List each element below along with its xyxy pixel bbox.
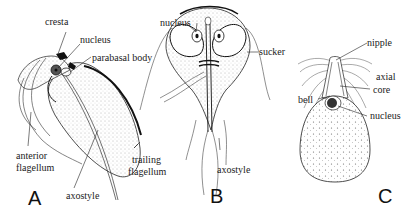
organism-c-drawing bbox=[298, 43, 372, 182]
label-a-anterior-flagellum: flagellum bbox=[16, 162, 54, 173]
label-a-trailing-flagellum: flagellum bbox=[128, 166, 166, 177]
label-a-cresta: cresta bbox=[45, 16, 68, 27]
label-a-parabasal-body: parabasal body bbox=[92, 52, 152, 63]
panel-label-c: C bbox=[378, 186, 392, 206]
label-c-nipple: nipple bbox=[367, 37, 392, 48]
label-c-axial: axial bbox=[376, 71, 395, 82]
label-b-sucker: sucker bbox=[259, 46, 285, 57]
label-a-axostyle: axostyle bbox=[66, 190, 99, 201]
label-b-axostyle: axostyle bbox=[217, 164, 250, 175]
label-c-axial-core: core bbox=[373, 84, 390, 95]
label-c-bell: bell bbox=[298, 94, 313, 105]
panel-label-b: B bbox=[210, 186, 223, 206]
protozoa-figure: cresta nucleus parabasal body anterior f… bbox=[0, 0, 413, 214]
label-a-nucleus: nucleus bbox=[80, 34, 111, 45]
label-b-nucleus: nucleus bbox=[160, 17, 191, 28]
label-a-trailing: trailing bbox=[132, 154, 161, 165]
label-c-nucleus: nucleus bbox=[370, 110, 401, 121]
figure-drawings bbox=[0, 0, 413, 214]
panel-label-a: A bbox=[28, 188, 41, 208]
label-a-anterior: anterior bbox=[16, 150, 47, 161]
